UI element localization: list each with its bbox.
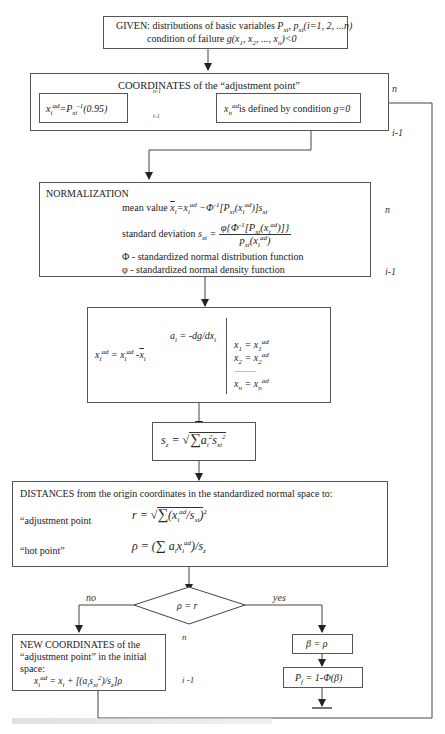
substitution-divider xyxy=(226,318,227,394)
new-coords-line-1: NEW COORDINATES of the xyxy=(20,639,140,651)
rho-formula: ρ = (∑ aixiad)/sz xyxy=(132,540,206,552)
i-label: i -1 xyxy=(182,675,194,685)
std-label: standard deviation xyxy=(122,228,198,239)
std-fraction: φ{Φ-1[Pxi(xiad)]} pxi(xiad) xyxy=(219,222,291,247)
xn-ad: xnad xyxy=(224,103,239,114)
given-condition-text: condition of failure xyxy=(147,33,227,44)
sz-formula: sz = √∑ai2sxi2 xyxy=(161,433,226,446)
sub-x2: x2 = x2ad xyxy=(234,352,269,364)
coords-loop-label-top: n xyxy=(392,83,397,94)
phi-upper-definition: Φ - standardized normal distribution fun… xyxy=(122,251,303,263)
beta-formula: β = ρ xyxy=(306,638,328,650)
std-numerator: φ{Φ-1[Pxi(xiad)]} xyxy=(219,222,291,235)
coords-loop-label-bottom: i-1 xyxy=(392,127,403,138)
new-coords-formula: xiad = xi + [(aisxi2)/sz]ρ xyxy=(34,675,122,687)
given-line-1: GIVEN: distributions of basic variables … xyxy=(116,20,352,32)
normalization-title: NORMALIZATION xyxy=(46,188,129,200)
ai-formula: ai = -dg/dxi xyxy=(170,330,216,342)
std-deviation-line: standard deviation sxi = φ{Φ-1[Pxi(xiad)… xyxy=(122,222,291,247)
xn-text: is defined by condition xyxy=(239,103,333,114)
given-text: GIVEN: distributions of basic variables xyxy=(116,20,277,31)
given-condition-formula: g(x1, x2, ..., xn)<0 xyxy=(227,33,297,44)
arrow-label-bottom: i-1 xyxy=(153,113,160,119)
norm-loop-label-bottom: i-1 xyxy=(385,266,396,277)
no-label: no xyxy=(86,592,96,603)
xi-formula: xiad = xiad -xi xyxy=(95,349,146,361)
given-variables: Pxi, pxi(i=1, 2, ...n) xyxy=(277,20,352,31)
sub-xn: xn = xnad xyxy=(234,378,269,390)
sub-x1: x1 = x1ad xyxy=(234,339,269,351)
std-lhs: sxi = xyxy=(198,228,216,239)
sub-dots: ........... xyxy=(234,364,256,376)
r-formula: r = √∑(xiad/sxi)2 xyxy=(132,508,207,521)
coords-right-formula: xnadis defined by condition g=0 xyxy=(224,103,350,115)
std-denominator: pxi(xiad) xyxy=(219,235,291,247)
mean-formula: xi=xiad −Φ-1[Pxi(xiad)]sxi xyxy=(170,202,267,213)
decision-condition: ρ = r xyxy=(177,600,197,612)
n-label: n xyxy=(182,632,187,642)
distances-title: DISTANCES from the origin coordinates in… xyxy=(20,488,332,500)
mean-value-line: mean value xi=xiad −Φ-1[Pxi(xiad)]sxi xyxy=(122,202,268,214)
adjustment-point-label: “adjustment point xyxy=(20,515,91,527)
given-line-2: condition of failure g(x1, x2, ..., xn)<… xyxy=(147,33,296,45)
coords-left-formula: xiad=Pxi-1(0.95) xyxy=(46,103,107,115)
xn-cond: g=0 xyxy=(333,103,350,114)
norm-loop-label-top: n xyxy=(385,204,390,215)
arrow-no-branch xyxy=(79,605,134,632)
arrow-label-top: n-1 xyxy=(153,88,161,94)
pf-formula: Pf = 1-Φ(β) xyxy=(295,672,342,684)
yes-label: yes xyxy=(273,592,286,603)
figure-caption xyxy=(12,718,272,724)
arrow-yes-branch xyxy=(245,605,322,632)
hot-point-label: “hot point” xyxy=(20,545,65,557)
phi-lower-definition: φ - standardized normal density function xyxy=(122,264,285,276)
new-coords-line-2: “adjustment point” in the initial xyxy=(20,651,147,663)
coordinates-title: COORDINATES of the “adjustment point” xyxy=(118,80,300,92)
mean-label: mean value xyxy=(122,202,170,213)
